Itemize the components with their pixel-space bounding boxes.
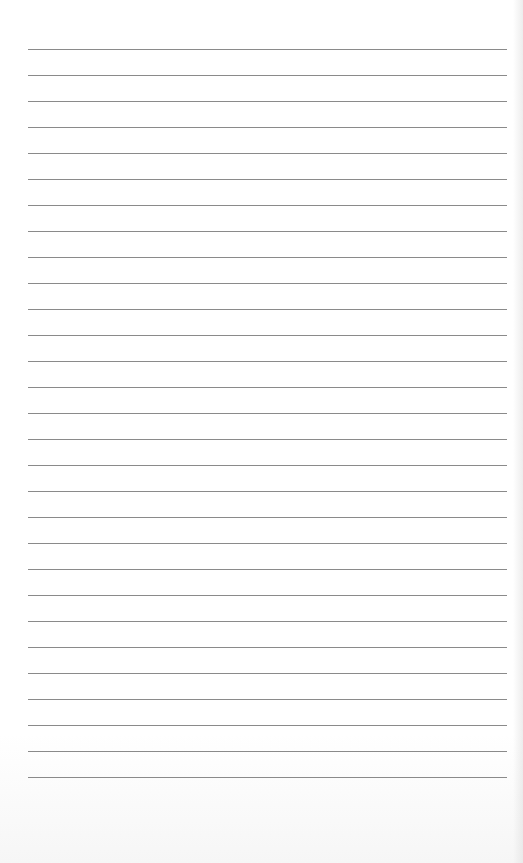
ruled-line [28,283,507,284]
ruled-line [28,309,507,310]
ruled-line [28,595,507,596]
ruled-line [28,673,507,674]
ruled-line [28,101,507,102]
ruled-line [28,179,507,180]
ruled-line [28,569,507,570]
ruled-line [28,491,507,492]
ruled-line [28,621,507,622]
ruled-line [28,257,507,258]
ruled-line [28,517,507,518]
ruled-line [28,127,507,128]
ruled-line [28,49,507,50]
ruled-line [28,439,507,440]
ruled-line [28,725,507,726]
page-edge-shadow [513,0,523,863]
ruled-line [28,335,507,336]
ruled-line [28,647,507,648]
lined-paper-page [0,0,523,863]
ruled-line [28,465,507,466]
ruled-line [28,699,507,700]
ruled-line [28,543,507,544]
ruled-line [28,205,507,206]
ruled-line [28,75,507,76]
ruled-line [28,153,507,154]
ruled-line [28,387,507,388]
ruled-line [28,361,507,362]
ruled-line [28,413,507,414]
ruled-line [28,777,507,778]
ruled-line [28,751,507,752]
ruled-line [28,231,507,232]
